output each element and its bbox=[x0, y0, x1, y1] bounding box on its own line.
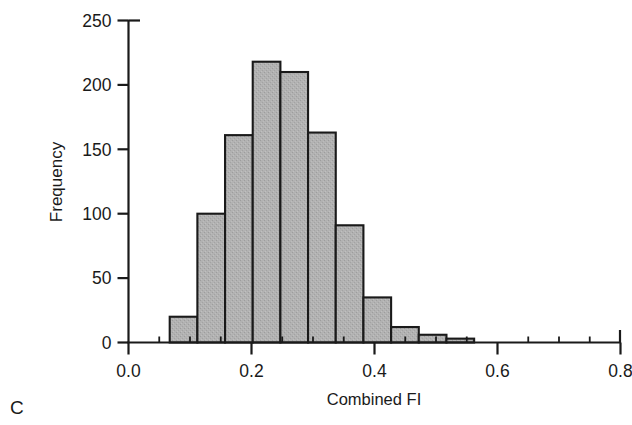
histogram-bar bbox=[253, 62, 281, 343]
histogram-bar bbox=[280, 72, 308, 342]
panel-label: C bbox=[10, 397, 24, 418]
y-axis-title: Frequency bbox=[47, 141, 66, 222]
histogram-bar bbox=[225, 135, 253, 342]
y-axis-tick-label: 0 bbox=[102, 333, 112, 353]
x-axis-tick-label: 0.4 bbox=[362, 361, 387, 381]
x-axis-tick-label: 0.8 bbox=[608, 361, 632, 381]
y-axis-tick-label: 200 bbox=[82, 75, 111, 95]
histogram-bar bbox=[170, 317, 198, 343]
histogram-bar bbox=[336, 225, 364, 342]
x-axis-ticks bbox=[129, 343, 621, 355]
y-axis-tick-label: 100 bbox=[82, 204, 111, 224]
histogram-figure: 050100150200250 0.00.20.40.60.8 Frequenc… bbox=[0, 0, 632, 425]
x-axis-tick-label: 0.6 bbox=[485, 361, 509, 381]
y-axis-tick-label: 250 bbox=[82, 11, 111, 31]
x-axis-tick-label: 0.0 bbox=[116, 361, 141, 381]
histogram-bar bbox=[197, 214, 225, 343]
histogram-plot: 050100150200250 0.00.20.40.60.8 Frequenc… bbox=[0, 0, 632, 425]
y-axis-tick-label: 50 bbox=[92, 268, 112, 288]
histogram-bars bbox=[170, 62, 474, 343]
x-axis-tick-label: 0.2 bbox=[239, 361, 263, 381]
x-axis-title: Combined FI bbox=[327, 390, 421, 408]
histogram-bar bbox=[308, 133, 336, 343]
x-axis-tick-labels: 0.00.20.40.60.8 bbox=[116, 361, 632, 381]
histogram-bar bbox=[363, 297, 391, 342]
y-axis-ticks bbox=[118, 21, 129, 343]
y-axis-tick-labels: 050100150200250 bbox=[82, 11, 111, 353]
histogram-bar bbox=[419, 335, 447, 343]
y-axis-tick-label: 150 bbox=[82, 140, 111, 160]
